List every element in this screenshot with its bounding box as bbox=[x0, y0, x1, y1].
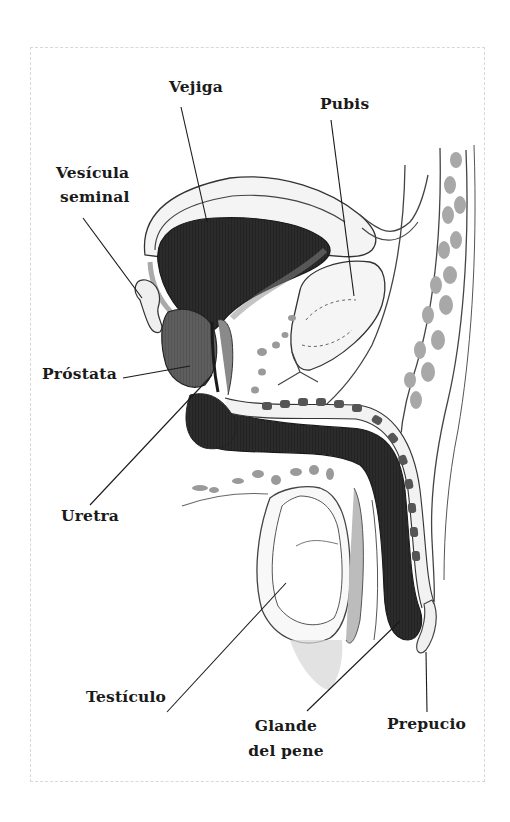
tissue-dots bbox=[251, 315, 296, 394]
prostate bbox=[162, 309, 217, 387]
testis bbox=[182, 487, 378, 690]
label-glande-line2: del pene bbox=[238, 740, 334, 762]
leader-vesicula bbox=[83, 218, 142, 298]
anatomy-illustration bbox=[0, 0, 510, 822]
label-vejiga: Vejiga bbox=[169, 76, 223, 98]
label-testiculo: Testículo bbox=[86, 686, 166, 708]
label-vesicula-seminal-line2: seminal bbox=[60, 186, 129, 208]
muscle-fibers bbox=[404, 152, 466, 409]
label-prostata: Próstata bbox=[42, 363, 117, 385]
pubic-bone bbox=[278, 261, 385, 385]
label-glande-line1: Glande bbox=[238, 715, 334, 737]
leader-prepucio bbox=[426, 652, 427, 712]
label-prepucio: Prepucio bbox=[387, 713, 466, 735]
label-uretra: Uretra bbox=[61, 505, 119, 527]
label-vesicula-seminal-line1: Vesícula bbox=[56, 162, 129, 184]
leader-testiculo bbox=[167, 583, 286, 712]
label-pubis: Pubis bbox=[320, 93, 369, 115]
